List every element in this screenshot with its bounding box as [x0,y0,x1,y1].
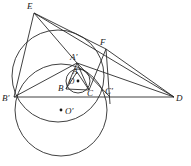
point-marker-O [77,80,80,83]
label-point-F: F [99,37,106,47]
figure-canvas: E F A′ A B C B′ C′ D O O′ [0,0,191,166]
segment-E-to-F [34,13,106,49]
label-point-O-prime: O′ [65,106,74,116]
label-point-D: D [175,93,183,103]
geometry-figure: E F A′ A B C B′ C′ D O O′ [0,0,191,166]
label-point-B-prime: B′ [2,93,10,103]
label-point-O: O [69,77,75,86]
label-point-A-prime: A′ [69,52,78,62]
label-point-B: B [58,83,64,93]
segment-F-to-D [106,49,174,97]
segment-Aprime-to-Bprime [14,63,77,97]
label-point-E: E [26,1,33,11]
point-marker-O-prime [60,109,63,112]
label-point-C-prime: C′ [105,86,114,96]
segment-E-to-D [34,13,174,97]
label-point-A: A [72,67,78,76]
label-point-C: C [87,88,94,98]
